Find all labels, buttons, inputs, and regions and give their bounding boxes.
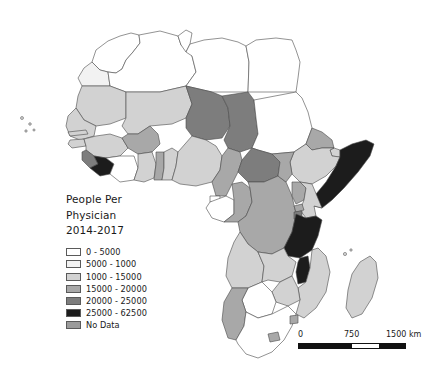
legend-title-line-1: People Per — [66, 192, 174, 208]
legend-swatch — [66, 273, 81, 281]
legend-item-label: 15000 - 20000 — [86, 284, 147, 294]
map-scalebar: 0 750 1500 km — [298, 330, 416, 349]
island-cape-verde-a — [21, 117, 24, 120]
legend-item: 25000 - 62500 — [66, 307, 174, 319]
legend-swatch — [66, 260, 81, 268]
scalebar-segment — [379, 344, 406, 348]
legend-item-label: 5000 - 1000 — [86, 259, 136, 269]
legend-item-label: 0 - 5000 — [86, 247, 121, 257]
scalebar-labels: 0 750 1500 km — [298, 330, 416, 341]
scalebar-segment — [326, 344, 353, 348]
map-legend: People Per Physician 2014-2017 0 - 5000 … — [66, 192, 174, 332]
legend-swatch — [66, 248, 81, 256]
legend-swatch — [66, 285, 81, 293]
legend-item-label: 1000 - 15000 — [86, 272, 142, 282]
legend-title: People Per Physician 2014-2017 — [66, 192, 174, 239]
legend-item-label: 25000 - 62500 — [86, 308, 147, 318]
country-guinea-bissau — [68, 139, 86, 148]
country-sudan — [252, 92, 312, 154]
scalebar-segment — [299, 344, 326, 348]
island-cape-verde-d — [33, 129, 35, 131]
legend-item: 5000 - 1000 — [66, 259, 174, 271]
legend-title-line-3: 2014-2017 — [66, 223, 174, 239]
scalebar-track — [298, 343, 406, 349]
island-cape-verde-c — [25, 130, 27, 132]
country-mali — [122, 86, 192, 134]
country-lesotho — [268, 332, 280, 342]
country-eswatini — [290, 315, 298, 324]
scalebar-label-start: 0 — [298, 330, 303, 339]
island-comoros-b — [350, 249, 352, 251]
legend-swatch — [66, 321, 81, 329]
legend-swatch — [66, 297, 81, 305]
map-canvas — [0, 0, 433, 384]
legend-item-label: 20000 - 25000 — [86, 296, 147, 306]
legend-item: 20000 - 25000 — [66, 295, 174, 307]
legend-swatch — [66, 309, 81, 317]
africa-choropleth-map — [0, 0, 433, 384]
country-niger — [186, 86, 230, 140]
legend-item: No Data — [66, 320, 174, 332]
legend-item: 1000 - 15000 — [66, 271, 174, 283]
scalebar-label-mid: 750 — [344, 330, 359, 339]
legend-item: 0 - 5000 — [66, 247, 174, 259]
scalebar-label-end: 1500 km — [386, 330, 421, 339]
country-egypt — [246, 38, 300, 92]
legend-item: 15000 - 20000 — [66, 283, 174, 295]
country-libya — [186, 38, 249, 92]
legend-title-line-2: Physician — [66, 208, 174, 224]
legend-item-label: No Data — [86, 320, 120, 330]
country-comoros — [343, 252, 346, 255]
legend-item-list: 0 - 5000 5000 - 1000 1000 - 15000 15000 … — [66, 247, 174, 332]
country-madagascar — [346, 256, 378, 318]
scalebar-segment — [352, 344, 379, 348]
island-cape-verde-b — [29, 123, 32, 126]
